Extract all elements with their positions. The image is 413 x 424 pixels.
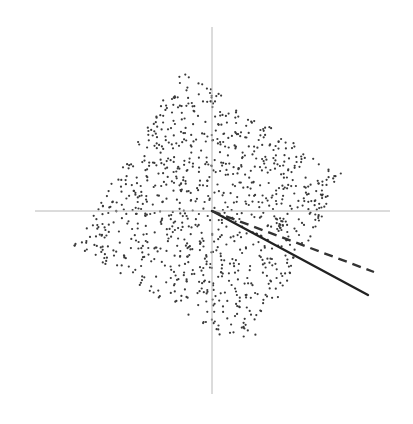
data-point [282,218,284,220]
data-point [170,159,172,161]
data-point [237,234,239,236]
data-point [307,186,309,188]
data-point [134,192,136,194]
data-point [100,202,102,204]
data-point [272,208,274,210]
data-point [205,321,207,323]
data-point [259,134,261,136]
data-point [205,300,207,302]
data-point [192,123,194,125]
data-point [320,206,322,208]
data-point [173,156,175,158]
data-point [269,143,271,145]
data-point [207,215,209,217]
data-point [271,197,273,199]
data-point [206,292,208,294]
data-point [237,278,239,280]
data-point [268,283,270,285]
data-point [282,284,284,286]
data-point [182,215,184,217]
data-point [130,238,132,240]
data-point [128,266,130,268]
data-point [244,283,246,285]
data-point [141,258,143,260]
data-point [232,184,234,186]
data-point [283,177,285,179]
data-point [183,238,185,240]
data-point [245,247,247,249]
data-point [136,177,138,179]
scatter-plot [0,0,413,424]
data-point [292,142,294,144]
data-point [128,167,130,169]
data-point [232,173,234,175]
data-point [182,132,184,134]
data-point [244,174,246,176]
data-point [263,160,265,162]
data-point [225,226,227,228]
data-point [171,111,173,113]
data-point [146,241,148,243]
data-point [179,208,181,210]
data-point [293,192,295,194]
data-point [181,105,183,107]
data-point [170,218,172,220]
data-point [247,329,249,331]
data-point [141,161,143,163]
data-point [92,224,94,226]
data-point [108,224,110,226]
data-point [254,334,256,336]
data-point [220,162,222,164]
data-point [263,136,265,138]
data-point [97,226,99,228]
data-point [184,212,186,214]
data-point [95,235,97,237]
data-point [244,200,246,202]
data-point [137,207,139,209]
data-point [279,227,281,229]
data-point [108,231,110,233]
data-point [135,239,137,241]
data-point [126,175,128,177]
data-point [106,257,108,259]
data-point [283,173,285,175]
data-point [184,74,186,76]
data-point [202,184,204,186]
data-point [275,189,277,191]
data-point [120,191,122,193]
data-point [173,171,175,173]
data-point [183,271,185,273]
data-point [206,156,208,158]
data-point [116,264,118,266]
data-point [166,160,168,162]
data-point [102,261,104,263]
data-point [141,275,143,277]
data-point [126,223,128,225]
data-point [285,147,287,149]
data-point [234,131,236,133]
data-point [302,153,304,155]
data-point [290,185,292,187]
data-point [174,301,176,303]
data-point [193,110,195,112]
data-point [253,146,255,148]
data-point [314,199,316,201]
data-point [258,206,260,208]
data-point [288,266,290,268]
data-point [278,225,280,227]
data-point [160,105,162,107]
data-point [120,272,122,274]
data-point [253,216,255,218]
data-point [217,229,219,231]
data-point [223,132,225,134]
data-point [316,209,318,211]
data-point [233,262,235,264]
data-point [178,145,180,147]
data-point [152,204,154,206]
data-point [218,300,220,302]
data-point [225,115,227,117]
data-point [178,184,180,186]
data-point [269,169,271,171]
data-point [220,292,222,294]
data-point [130,163,132,165]
